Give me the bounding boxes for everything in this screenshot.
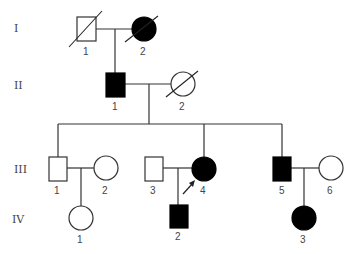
generation-label-1: I bbox=[14, 22, 18, 35]
individual-I-2: 2 bbox=[125, 16, 158, 57]
svg-text:3: 3 bbox=[150, 185, 156, 196]
svg-text:1: 1 bbox=[54, 185, 60, 196]
individual-IV-3: 3 bbox=[292, 206, 316, 245]
individual-III-6: 6 bbox=[319, 156, 343, 196]
individual-III-2: 2 bbox=[94, 156, 118, 196]
generation-label-3: III bbox=[14, 163, 27, 176]
individual-IV-2: 2 bbox=[170, 205, 188, 242]
individual-IV-1: 1 bbox=[69, 206, 93, 245]
svg-text:2: 2 bbox=[102, 185, 108, 196]
individual-III-1: 1 bbox=[49, 157, 67, 196]
individual-III-5: 5 bbox=[273, 157, 291, 196]
svg-text:1: 1 bbox=[83, 46, 89, 57]
svg-text:2: 2 bbox=[179, 101, 185, 112]
svg-text:1: 1 bbox=[77, 234, 83, 245]
generation-label-4: IV bbox=[12, 213, 25, 226]
generation-label-2: II bbox=[14, 79, 23, 92]
svg-text:5: 5 bbox=[279, 185, 285, 196]
individual-II-1: 1 bbox=[106, 73, 125, 112]
svg-text:2: 2 bbox=[140, 46, 146, 57]
svg-text:3: 3 bbox=[300, 234, 306, 245]
individual-I-1: 1 bbox=[69, 11, 102, 57]
svg-text:4: 4 bbox=[200, 185, 206, 196]
proband-arrow-icon bbox=[183, 180, 195, 194]
svg-text:2: 2 bbox=[175, 231, 181, 242]
individual-II-2: 2 bbox=[166, 71, 198, 112]
individual-III-3: 3 bbox=[145, 157, 163, 196]
pedigree-diagram: I II III IV 1 2 1 2 1 2 bbox=[0, 0, 357, 254]
individual-III-4: 4 bbox=[183, 157, 216, 196]
svg-text:1: 1 bbox=[112, 101, 118, 112]
svg-text:6: 6 bbox=[327, 185, 333, 196]
